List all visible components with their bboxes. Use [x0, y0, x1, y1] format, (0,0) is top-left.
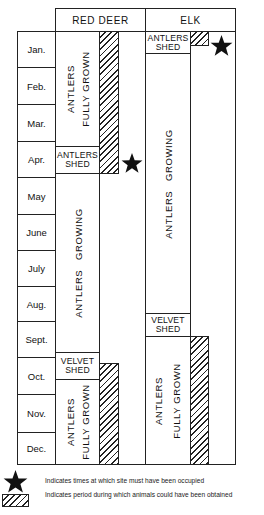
red-deer-antlers-growing: ANTLERS GROWING [55, 173, 100, 353]
elk-growing-text: ANTLERS GROWING [131, 129, 206, 238]
month-apr: Apr. [17, 141, 56, 178]
elk-antlers-shed: ANTLERS SHED [145, 31, 191, 54]
month-sep: Sept. [17, 321, 56, 358]
red-deer-antlers-fully-grown-late: ANTLERS FULLY GROWN [55, 379, 100, 465]
red-deer-antlers-fully-grown-early: ANTLERS FULLY GROWN [55, 31, 100, 147]
text-line-1: ANTLERS GROWING [161, 129, 176, 238]
text-line-1: ANTLERS [63, 384, 78, 459]
legend-hatch-icon [2, 494, 29, 507]
elk-procurement-hatch-early [190, 31, 209, 46]
text-line-2: SHED [156, 325, 181, 334]
red-deer-growing-text: ANTLERS GROWING [40, 208, 115, 317]
elk-velvet-shed: VELVET SHED [145, 313, 191, 337]
text-line-1: ANTLERS [150, 363, 168, 438]
elk-occupation-star-icon [210, 34, 233, 57]
red-deer-antlers-shed: ANTLERS SHED [55, 146, 100, 174]
red-deer-fully-grown-early-text: ANTLERS FULLY GROWN [63, 51, 93, 126]
text-line-2: FULLY GROWN [168, 363, 186, 438]
red-deer-procurement-hatch-early [99, 31, 119, 174]
month-feb: Feb. [17, 67, 56, 105]
elk-procurement-hatch-late [190, 336, 209, 465]
month-dec: Dec. [17, 432, 56, 465]
text-line-1: ANTLERS GROWING [70, 208, 85, 317]
text-line-2: SHED [65, 366, 90, 375]
month-nov: Nov. [17, 394, 56, 433]
elk-fully-grown-text: ANTLERS FULLY GROWN [150, 363, 186, 438]
red-deer-procurement-hatch-late [99, 363, 119, 465]
red-deer-fully-grown-late-text: ANTLERS FULLY GROWN [63, 384, 93, 459]
elk-antlers-fully-grown: ANTLERS FULLY GROWN [145, 336, 191, 465]
month-mar: Mar. [17, 104, 56, 142]
legend-hatch-text: Indicates period during which animals co… [45, 491, 232, 498]
legend-star-icon [3, 469, 28, 494]
month-oct: Oct. [17, 357, 56, 395]
header-elk-label: ELK [180, 15, 201, 26]
text-line-2: FULLY GROWN [78, 384, 93, 459]
header-elk: ELK [145, 8, 236, 32]
header-red-deer: RED DEER [55, 8, 146, 32]
text-line-2: FULLY GROWN [78, 51, 93, 126]
header-red-deer-label: RED DEER [72, 15, 128, 26]
red-deer-velvet-shed: VELVET SHED [55, 352, 100, 380]
elk-antlers-growing: ANTLERS GROWING [145, 53, 191, 314]
text-line-2: SHED [65, 160, 90, 169]
text-line-2: SHED [156, 43, 181, 52]
month-jan: Jan. [17, 31, 56, 68]
text-line-1: ANTLERS [63, 51, 78, 126]
legend-star-text: Indicates times at which site must have … [45, 477, 204, 484]
